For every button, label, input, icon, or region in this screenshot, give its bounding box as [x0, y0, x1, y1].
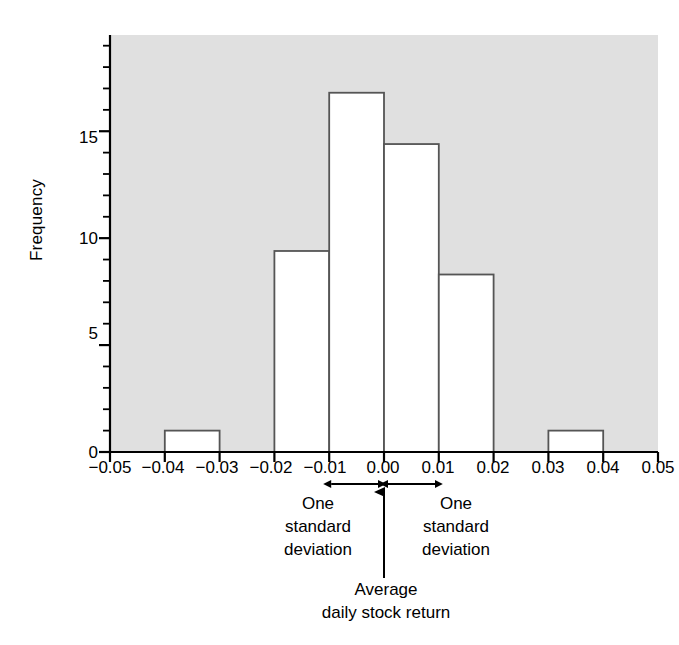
one-sd-right-line2: standard [391, 515, 521, 538]
average-return-label: Average daily stock return [246, 578, 526, 624]
one-sd-left-line3: deviation [253, 538, 383, 561]
histogram-bar [329, 93, 384, 452]
y-tick-label-15: 15 [52, 128, 98, 148]
histogram-bar [165, 431, 220, 452]
y-tick-label-10: 10 [52, 229, 98, 249]
histogram-bar [274, 251, 329, 452]
one-sd-left-line1: One [253, 492, 383, 515]
y-axis-ticks [99, 46, 110, 452]
one-sd-left-line2: standard [253, 515, 383, 538]
histogram-bar [384, 144, 439, 452]
one-sd-right-line3: deviation [391, 538, 521, 561]
average-return-line2: daily stock return [246, 601, 526, 624]
x-tick-label-neg001: −0.01 [293, 458, 357, 478]
histogram-bar [439, 275, 494, 452]
one-sd-left-label: One standard deviation [253, 492, 383, 561]
one-sd-right-label: One standard deviation [391, 492, 521, 561]
histogram-bar [548, 431, 603, 452]
one-sd-right-line1: One [391, 492, 521, 515]
x-tick-label-005: 0.05 [626, 458, 679, 478]
y-tick-label-5: 5 [52, 324, 98, 344]
average-return-line1: Average [246, 578, 526, 601]
